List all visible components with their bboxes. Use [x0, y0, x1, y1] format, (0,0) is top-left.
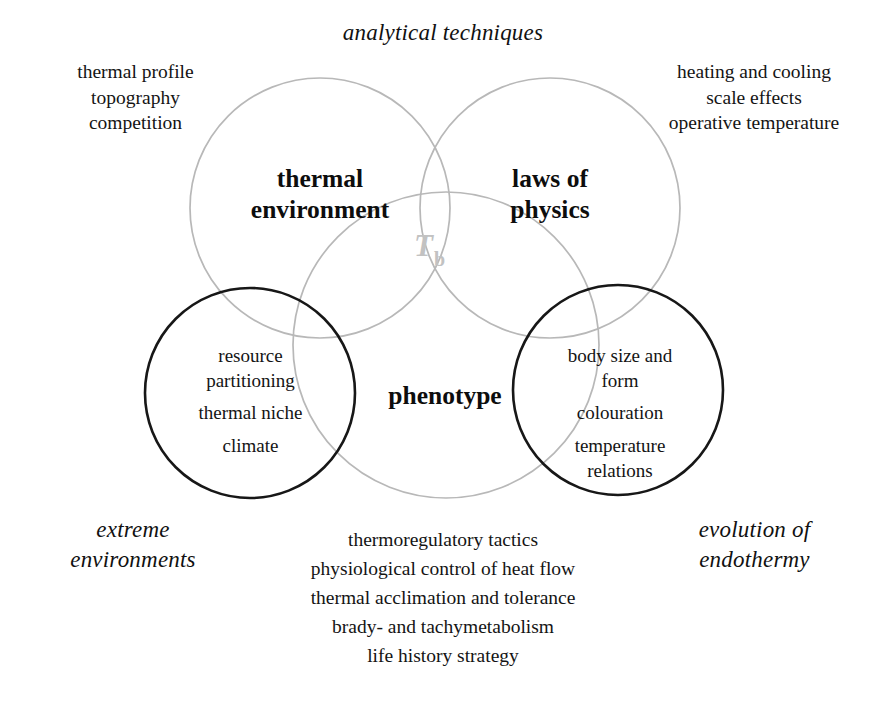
caption-extreme-environments: extreme environments — [28, 515, 238, 575]
satellite-list-top-right: heating and cooling scale effects operat… — [639, 59, 869, 136]
caption-line: evolution of — [647, 515, 862, 545]
list-item: thermoregulatory tactics — [263, 525, 623, 554]
list-item: resource — [168, 344, 333, 369]
label-body-temperature: Tb — [414, 228, 444, 268]
label-line: physics — [462, 194, 638, 225]
caption-line: endothermy — [647, 545, 862, 575]
list-item: form — [540, 369, 700, 394]
tb-symbol: T — [414, 228, 433, 263]
bottom-list-phenotype: thermoregulatory tactics physiological c… — [263, 525, 623, 670]
list-item: operative temperature — [639, 110, 869, 136]
label-line: phenotype — [355, 380, 535, 411]
list-item: thermal profile — [28, 59, 243, 85]
list-item: colouration — [540, 401, 700, 426]
list-item: relations — [540, 459, 700, 484]
list-item: brady- and tachymetabolism — [263, 612, 623, 641]
list-item: body size and — [540, 344, 700, 369]
caption-analytical-techniques: analytical techniques — [243, 18, 643, 48]
tb-subscript: b — [434, 248, 445, 270]
list-item: thermal niche — [168, 401, 333, 426]
label-phenotype: phenotype — [355, 380, 535, 411]
list-item: partitioning — [168, 369, 333, 394]
list-item: heating and cooling — [639, 59, 869, 85]
list-item: climate — [168, 434, 333, 459]
caption-evolution-of-endothermy: evolution of endothermy — [647, 515, 862, 575]
label-laws-of-physics: laws of physics — [462, 163, 638, 225]
satellite-list-top-left: thermal profile topography competition — [28, 59, 243, 136]
list-item: physiological control of heat flow — [263, 554, 623, 583]
spacer — [540, 426, 700, 434]
list-item: competition — [28, 110, 243, 136]
list-item: temperature — [540, 434, 700, 459]
label-line: laws of — [462, 163, 638, 194]
spacer — [168, 426, 333, 434]
list-item: topography — [28, 85, 243, 111]
spacer — [540, 393, 700, 401]
list-item: life history strategy — [263, 641, 623, 670]
inner-list-extreme-environments: resource partitioning thermal niche clim… — [168, 344, 333, 459]
list-item: thermal acclimation and tolerance — [263, 583, 623, 612]
venn-diagram-figure: analytical techniques thermal profile to… — [0, 0, 886, 704]
caption-line: extreme — [28, 515, 238, 545]
label-thermal-environment: thermal environment — [205, 163, 435, 225]
caption-line: environments — [28, 545, 238, 575]
list-item: scale effects — [639, 85, 869, 111]
spacer — [168, 393, 333, 401]
label-line: thermal — [205, 163, 435, 194]
label-line: environment — [205, 194, 435, 225]
inner-list-evolution-of-endothermy: body size and form colouration temperatu… — [540, 344, 700, 483]
